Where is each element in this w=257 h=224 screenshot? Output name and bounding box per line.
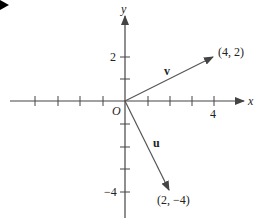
y-tick-label-neg4: −4 xyxy=(104,185,117,199)
origin-label: O xyxy=(112,104,121,118)
y-axis-label: y xyxy=(120,2,127,16)
vector-u xyxy=(125,101,169,190)
vector-u-label: u xyxy=(153,136,160,150)
vector-v-label: v xyxy=(164,64,170,78)
x-tick-label-4: 4 xyxy=(210,107,216,121)
y-tick-label-2: 2 xyxy=(110,50,116,64)
vector-diagram: y x O 4 2 −4 v u (4, 2) (2, −4) xyxy=(0,0,257,224)
x-axis-label: x xyxy=(247,94,254,108)
vector-v-endpoint-label: (4, 2) xyxy=(218,45,244,59)
vector-u-endpoint-label: (2, −4) xyxy=(157,193,190,207)
corner-triangle-marker xyxy=(0,0,9,10)
